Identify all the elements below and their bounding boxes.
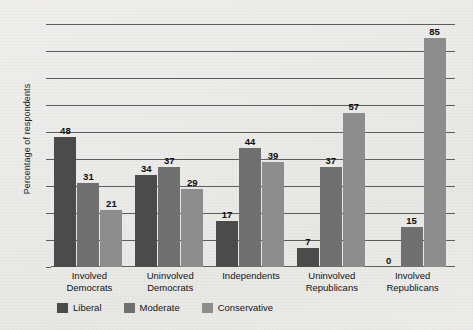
x-axis-category-labels: InvolvedDemocratsUninvolvedDemocratsInde… (51, 270, 455, 302)
bar-group: 01585 (378, 24, 448, 267)
bar[interactable] (54, 137, 76, 267)
plot-area: 0102030405060708090 48312134372917443973… (51, 24, 455, 267)
bar-value-label: 31 (72, 171, 104, 182)
x-category-label: InvolvedRepublicans (358, 270, 468, 293)
bar-value-label: 44 (234, 136, 266, 147)
chart-legend: LiberalModerateConservative (57, 302, 273, 313)
bar[interactable] (216, 221, 238, 267)
bar-value-label: 48 (49, 125, 81, 136)
legend-swatch-icon (124, 303, 135, 313)
x-category-label-line: Democrats (115, 282, 225, 294)
bar-value-label: 85 (419, 26, 451, 37)
bar-value-label: 37 (153, 155, 185, 166)
bar-groups: 4831213437291744397375701585 (51, 24, 455, 267)
bar-value-label: 39 (257, 150, 289, 161)
legend-item-moderate[interactable]: Moderate (124, 302, 180, 313)
y-axis-title: Percentage of respondents (22, 29, 32, 249)
bar[interactable] (320, 167, 342, 267)
bar-group: 483121 (54, 24, 124, 267)
legend-label: Conservative (218, 302, 273, 313)
bar-value-label: 57 (338, 101, 370, 112)
x-category-label-line: Involved (358, 270, 468, 282)
legend-swatch-icon (202, 303, 213, 313)
bar-value-label: 21 (95, 198, 127, 209)
bar[interactable] (297, 248, 319, 267)
bar[interactable] (100, 210, 122, 267)
bar[interactable] (77, 183, 99, 267)
legend-label: Moderate (140, 302, 180, 313)
bar[interactable] (343, 113, 365, 267)
bar[interactable] (401, 227, 423, 268)
bar[interactable] (181, 189, 203, 267)
bar[interactable] (424, 38, 446, 268)
bar[interactable] (262, 162, 284, 267)
y-tick-mark-0 (46, 267, 51, 268)
chart-page: Percentage of respondents 01020304050607… (0, 0, 473, 330)
legend-swatch-icon (57, 303, 68, 313)
legend-item-liberal[interactable]: Liberal (57, 302, 102, 313)
bar[interactable] (239, 148, 261, 267)
bar-value-label: 29 (176, 177, 208, 188)
bar-group: 174439 (216, 24, 286, 267)
legend-item-conservative[interactable]: Conservative (202, 302, 273, 313)
bar-group: 73757 (297, 24, 367, 267)
legend-label: Liberal (73, 302, 102, 313)
x-category-label-line: Republicans (358, 282, 468, 294)
bar[interactable] (135, 175, 157, 267)
bar-group: 343729 (135, 24, 205, 267)
